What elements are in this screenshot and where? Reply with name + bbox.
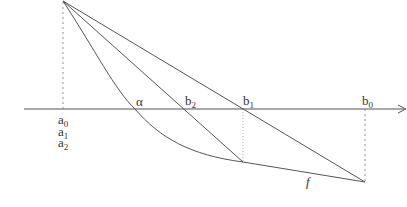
label-b2: b2 bbox=[185, 94, 196, 110]
diagram-svg bbox=[0, 0, 407, 207]
label-alpha: α bbox=[136, 95, 143, 108]
label-f: f bbox=[306, 175, 310, 188]
label-b0: b0 bbox=[362, 94, 373, 110]
label-a2: a2 bbox=[58, 136, 68, 152]
chord-b1 bbox=[63, 1, 243, 162]
label-b1: b1 bbox=[243, 94, 254, 110]
diagram-canvas: a0 a1 a2 α b2 b1 b0 f bbox=[0, 0, 407, 207]
chord-b0 bbox=[63, 1, 365, 182]
